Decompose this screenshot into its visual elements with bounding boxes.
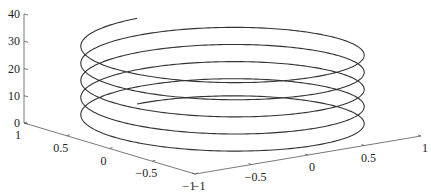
tick-label: 0 [309,160,315,174]
tick-mark [362,145,365,146]
tick-mark [152,160,155,161]
tick-label: −0.5 [245,170,267,184]
tick-mark [24,41,28,42]
tick-mark [24,69,28,70]
tick-label: 1 [422,141,428,155]
tick-mark [24,14,28,15]
tick-label: 10 [8,89,20,103]
helix-curve [81,18,364,151]
tick-label: 40 [8,7,20,21]
tick-label: −0.5 [135,166,157,180]
tick-mark [418,135,421,136]
tick-mark [192,173,195,174]
tick-mark [305,154,308,155]
tick-label: 0 [101,154,107,168]
tick-mark [110,148,113,149]
tick-label: 30 [8,34,20,48]
tick-label: −1 [193,179,206,193]
tick-mark [67,135,70,136]
helix-3d-plot: 01020304010.50−0.5−1−1−0.500.51 [0,0,431,194]
tick-mark [249,164,252,165]
tick-mark [24,96,28,97]
tick-label: 0.5 [361,151,376,165]
tick-mark [24,122,27,123]
tick-label: 0.5 [53,141,68,155]
tick-label: 1 [15,128,21,142]
tick-label: 20 [8,62,20,76]
